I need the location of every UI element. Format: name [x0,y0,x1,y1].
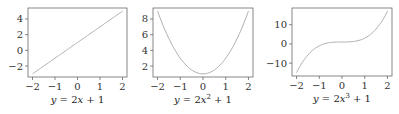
y-tick-label: −2 [8,61,23,72]
x-tick-label: 0 [339,80,345,91]
y-tick-label: 6 [142,29,148,40]
x-tick-label: 2 [245,81,251,92]
subplot-caption: y = 2x + 1 [50,94,105,105]
y-tick-label: 2 [17,29,23,40]
y-tick-label: 4 [17,13,23,24]
x-tick-label: −1 [312,80,327,91]
x-tick-label: −2 [25,81,40,92]
x-tick-label: −2 [150,81,165,92]
x-tick-label: 2 [119,81,125,92]
x-tick-label: 1 [97,81,103,92]
function-curve [297,11,388,72]
subplot-caption: y = 2x2 + 1 [173,93,232,105]
function-curve [158,11,249,74]
y-tick-label: 2 [142,61,148,72]
y-tick-label: −10 [266,58,287,69]
y-tick-label: 0 [281,38,287,49]
y-tick-label: 0 [17,45,23,56]
x-tick-label: −2 [289,80,304,91]
x-tick-label: −1 [173,81,188,92]
axes-frame [153,8,253,77]
y-tick-label: 4 [142,45,148,56]
x-tick-label: 0 [74,81,80,92]
subplot-cubic: −2−1012−10010y = 2x3 + 1 [266,8,392,104]
y-tick-label: 8 [142,13,148,24]
figure: −2−1012−2024y = 2x + 1 −2−10122468y = 2x… [0,0,399,114]
subplot-linear: −2−1012−2024y = 2x + 1 [8,8,127,105]
y-tick-label: 10 [274,19,287,30]
subplot-quadratic: −2−10122468y = 2x2 + 1 [142,8,253,105]
x-tick-label: 1 [223,81,229,92]
x-tick-label: 1 [362,80,368,91]
x-tick-label: 0 [200,81,206,92]
subplot-caption: y = 2x3 + 1 [312,92,371,104]
function-curve [33,11,123,74]
x-tick-label: 2 [384,80,390,91]
x-tick-label: −1 [48,81,63,92]
